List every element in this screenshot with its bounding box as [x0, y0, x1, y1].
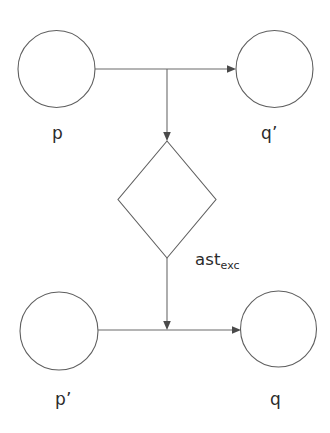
- diagram-canvas: p q’ p’ q astexc: [0, 0, 330, 433]
- node-label-q-prime: q’: [261, 125, 278, 142]
- node-label-p-prime: p’: [55, 391, 72, 408]
- edge-label-ast-subscript: exc: [220, 259, 239, 272]
- diagram-graphics: [0, 0, 330, 433]
- arrowhead-junction-to-diamond: [163, 132, 171, 141]
- node-circle-p[interactable]: [18, 31, 95, 108]
- edge-label-ast-base: ast: [195, 250, 220, 269]
- diamond-ast-exc[interactable]: [118, 141, 216, 258]
- edge-label-ast-exc: astexc: [195, 252, 240, 271]
- arrowhead-p-prime-to-q: [232, 326, 241, 334]
- node-label-q: q: [270, 391, 281, 408]
- node-circle-q-prime[interactable]: [236, 31, 313, 108]
- arrowhead-p-to-q-prime: [227, 65, 236, 73]
- node-circle-q[interactable]: [241, 291, 317, 367]
- node-label-p: p: [52, 125, 63, 142]
- arrowhead-diamond-to-bottom: [163, 321, 171, 330]
- node-circle-p-prime[interactable]: [20, 292, 98, 370]
